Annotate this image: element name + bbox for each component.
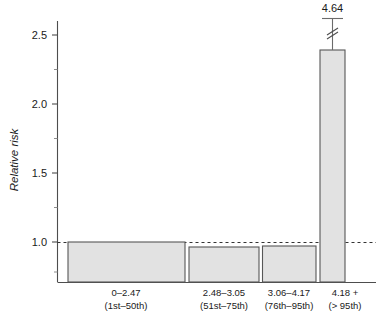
y-axis-title: Relative risk: [8, 127, 20, 191]
y-tick-label-2.5: 2.5: [32, 29, 47, 41]
category-label-1: 2.48–3.05: [203, 287, 245, 298]
y-tick-label-1.0: 1.0: [32, 236, 47, 248]
category-label-3: 4.18 +: [332, 287, 359, 298]
category-label-2: 3.06–4.17: [268, 287, 310, 298]
bar-3-value-label: 4.64: [322, 2, 343, 14]
category-label-0: 0–2.47: [111, 287, 140, 298]
y-axis-title-label: Relative risk: [8, 127, 20, 191]
category-sublabel-1: (51st–75th): [200, 300, 248, 311]
category-sublabel-2: (76th–95th): [265, 300, 314, 311]
category-sublabel-3: (> 95th): [328, 300, 361, 311]
chart-svg: Relative risk 2.5 2.0 1.5 1.0: [0, 0, 383, 322]
y-tick-label-1.5: 1.5: [32, 167, 47, 179]
bar-0[interactable]: [68, 242, 185, 282]
bar-3[interactable]: [320, 50, 345, 282]
relative-risk-bar-chart: Relative risk 2.5 2.0 1.5 1.0: [0, 0, 383, 322]
y-tick-label-2.0: 2.0: [32, 98, 47, 110]
bar-2[interactable]: [263, 246, 317, 282]
bar-1[interactable]: [189, 247, 259, 282]
category-sublabel-0: (1st–50th): [105, 300, 148, 311]
